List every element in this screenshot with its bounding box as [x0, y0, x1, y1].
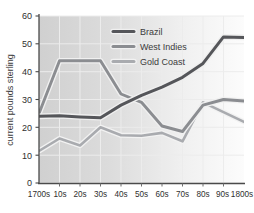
x-tick-label: 1800s [231, 190, 253, 199]
chart-canvas: 0 10 20 30 40 50 60 1700s 10s 20s 30s 40… [0, 0, 254, 213]
y-tick-label: 10 [22, 151, 32, 161]
y-axis-title: current pounds sterling [5, 54, 15, 146]
y-tick-label: 20 [22, 123, 32, 133]
x-tick-label: 1700s [28, 190, 50, 199]
x-tick-label: 40s [114, 190, 127, 199]
x-tick-label: 80s [196, 190, 209, 199]
y-tick-label: 60 [22, 11, 32, 21]
x-tick-label: 60s [155, 190, 168, 199]
legend-label-brazil: Brazil [140, 27, 163, 37]
line-chart: 0 10 20 30 40 50 60 1700s 10s 20s 30s 40… [0, 0, 254, 213]
y-tick-label: 0 [27, 178, 32, 188]
x-tick-label: 10s [53, 190, 66, 199]
y-tick-label: 30 [22, 95, 32, 105]
x-tick-label: 20s [73, 190, 86, 199]
x-tick-label: 50s [135, 190, 148, 199]
y-tick-label: 50 [22, 39, 32, 49]
x-tick-label: 70s [176, 190, 189, 199]
x-tick-label: 90s [216, 190, 229, 199]
x-tick-labels: 1700s 10s 20s 30s 40s 50s 60s 70s 80s 90… [28, 190, 253, 199]
x-tick-label: 30s [94, 190, 107, 199]
legend-label-west-indies: West Indies [140, 42, 187, 52]
legend-label-gold-coast: Gold Coast [140, 57, 186, 67]
y-tick-label: 40 [22, 67, 32, 77]
